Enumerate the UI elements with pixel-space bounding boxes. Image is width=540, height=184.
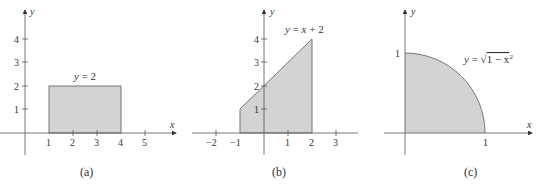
panel-label-c: (c): [464, 165, 477, 179]
y-tick-b-1: 1: [254, 104, 259, 115]
shaded-region-c: [405, 53, 485, 133]
y-tick-a-3: 3: [14, 57, 19, 68]
panel-a: x y 1 2 3 4 5 1 2 3 4 y = 2 (a): [0, 6, 176, 179]
x-tick-c-1: 1: [483, 137, 488, 148]
x-tick-a-4: 4: [118, 137, 123, 148]
y-tick-b-4: 4: [254, 34, 259, 45]
figure: x y 1 2 3 4 5 1 2 3 4 y = 2 (a) y −2 −1 …: [0, 0, 540, 184]
x-tick-a-1: 1: [46, 137, 51, 148]
panel-b: y −2 −1 1 2 3 1 2 3 4 y = x + 2 (b): [192, 6, 358, 179]
x-tick-b-1: 1: [285, 137, 290, 148]
panel-label-a: (a): [80, 165, 93, 179]
x-tick-b-2: 2: [309, 137, 314, 148]
y-tick-b-2: 2: [254, 81, 259, 92]
y-axis-label-b: y: [269, 6, 275, 17]
y-tick-b-3: 3: [254, 57, 259, 68]
panel-c: x y 1 1 y = √1 − x2 (c): [384, 6, 532, 179]
x-tick-b-neg1: −1: [230, 137, 241, 148]
equation-label-b: y = x + 2: [284, 23, 324, 35]
x-tick-a-2: 2: [70, 137, 75, 148]
x-axis-label-a: x: [169, 119, 175, 130]
shaded-region-b: [240, 39, 312, 133]
shaded-region-a: [49, 86, 121, 133]
equation-label-c: y = √1 − x2: [463, 53, 513, 65]
y-axis-label-a: y: [29, 6, 35, 17]
x-axis-label-c: x: [526, 119, 532, 130]
panel-label-b: (b): [272, 165, 286, 179]
x-tick-b-neg2: −2: [206, 137, 217, 148]
y-axis-label-c: y: [410, 6, 416, 17]
equation-label-a: y = 2: [73, 70, 96, 82]
x-tick-a-3: 3: [94, 137, 99, 148]
y-tick-c-1: 1: [395, 48, 400, 59]
y-tick-a-2: 2: [14, 81, 19, 92]
y-tick-a-4: 4: [14, 34, 19, 45]
y-tick-a-1: 1: [14, 104, 19, 115]
x-tick-b-3: 3: [333, 137, 338, 148]
x-tick-a-5: 5: [142, 137, 147, 148]
